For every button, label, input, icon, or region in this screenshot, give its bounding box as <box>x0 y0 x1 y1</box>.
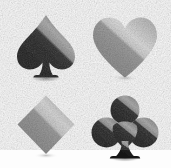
heart-icon <box>89 14 161 82</box>
diamond-body <box>18 96 75 155</box>
club-body <box>92 96 159 159</box>
suit-spade <box>14 12 78 82</box>
card-suits-image <box>0 0 171 168</box>
suit-club <box>89 92 161 162</box>
spade-icon <box>14 12 78 82</box>
club-stem <box>110 156 140 159</box>
spade-body <box>17 15 75 77</box>
suit-diamond <box>14 92 78 158</box>
diamond-icon <box>14 92 78 158</box>
suit-heart <box>89 14 161 82</box>
spade-stem <box>33 75 58 77</box>
club-icon <box>89 92 161 162</box>
heart-body <box>93 18 157 78</box>
